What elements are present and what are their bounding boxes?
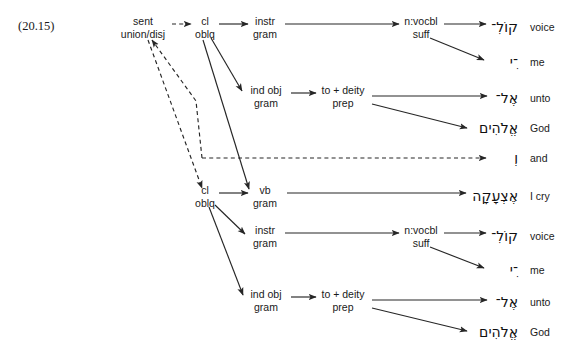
gloss-t-and: and: [530, 152, 548, 164]
hebrew-t-unto-1: אֶל־: [496, 90, 518, 106]
node-label-line2: oblq: [195, 27, 215, 40]
hebrew-t-god-2: אֱלֹהִים: [479, 324, 518, 340]
node-label-line2: gram: [253, 236, 277, 249]
node-label-line1: sent: [121, 15, 165, 28]
node-label-line1: instr: [253, 15, 277, 28]
node-label-line1: cl: [195, 184, 215, 197]
node-nvocbl2: n:vocblsuff: [404, 224, 437, 249]
node-sent: sentunion/disj: [121, 15, 165, 40]
node-label-line1: ind obj: [251, 84, 282, 97]
hebrew-t-god-1: אֱלֹהִים: [479, 120, 518, 136]
edge-e-cl1-vb2: [203, 40, 249, 189]
node-label-line2: suff: [404, 27, 437, 40]
edge-e-nvocbl1-me1: [430, 38, 484, 60]
edge-e-nvocbl2-me2: [430, 247, 484, 268]
gloss-t-voice-2: voice: [530, 230, 555, 242]
node-label-line1: n:vocbl: [404, 224, 437, 237]
gloss-t-god-2: God: [530, 326, 550, 338]
node-label-line2: suff: [404, 236, 437, 249]
hebrew-t-and: וְ: [514, 150, 518, 166]
node-label-line1: vb: [253, 184, 277, 197]
node-label-line1: to + deity: [322, 84, 365, 97]
node-cl1: cloblq: [195, 15, 215, 40]
edge-e-sent-down-cl2: [148, 40, 202, 188]
node-prep1: to + deityprep: [322, 84, 365, 109]
example-number: (20.15): [18, 19, 54, 34]
syntax-diagram: (20.15) sentunion/disjcloblqinstrgramn:v…: [0, 0, 576, 353]
hebrew-t-me-2: ־ִי: [510, 262, 518, 278]
hebrew-t-voice-1: קוֹלִ־: [491, 19, 518, 35]
node-label-line2: prep: [322, 300, 365, 313]
node-vb2: vbgram: [253, 184, 277, 209]
node-label-line1: to + deity: [322, 288, 365, 301]
edge-e-cl2-instr2: [215, 205, 245, 234]
gloss-t-god-1: God: [530, 122, 550, 134]
hebrew-t-voice-2: קוֹלִ־: [491, 228, 518, 244]
gloss-t-icry: I cry: [530, 190, 550, 202]
gloss-t-voice-1: voice: [530, 21, 555, 33]
node-instr2: instrgram: [253, 224, 277, 249]
edge-e-prep1-god1: [372, 104, 467, 128]
node-prep2: to + deityprep: [322, 288, 365, 313]
hebrew-t-me-1: ־ִי: [510, 54, 518, 70]
gloss-t-unto-1: unto: [530, 92, 550, 104]
edge-e-prep2-god2: [372, 308, 467, 331]
node-indobj1: ind objgram: [251, 84, 282, 109]
node-indobj2: ind objgram: [251, 288, 282, 313]
node-label-line1: n:vocbl: [404, 15, 437, 28]
edge-e-and-up-sent: [152, 40, 202, 158]
gloss-t-me-2: me: [530, 264, 545, 276]
node-label-line2: oblq: [195, 196, 215, 209]
edge-e-cl2-indobj2: [209, 207, 243, 295]
node-label-line2: prep: [322, 96, 365, 109]
node-label-line1: cl: [195, 15, 215, 28]
edge-layer: [0, 0, 576, 353]
node-label-line2: gram: [253, 27, 277, 40]
node-label-line1: instr: [253, 224, 277, 237]
node-label-line2: gram: [251, 300, 282, 313]
node-label-line1: ind obj: [251, 288, 282, 301]
node-label-line2: gram: [253, 196, 277, 209]
gloss-t-me-1: me: [530, 56, 545, 68]
node-instr1: instrgram: [253, 15, 277, 40]
edge-e-cl1-indobj1: [211, 38, 242, 91]
edges-group: [148, 24, 487, 331]
node-cl2: cloblq: [195, 184, 215, 209]
gloss-t-unto-2: unto: [530, 296, 550, 308]
node-label-line2: gram: [251, 96, 282, 109]
hebrew-t-unto-2: אֶל־: [496, 294, 518, 310]
node-nvocbl1: n:vocblsuff: [404, 15, 437, 40]
hebrew-t-icry: אֶצְעָקָה: [472, 188, 518, 204]
node-label-line2: union/disj: [121, 27, 165, 40]
